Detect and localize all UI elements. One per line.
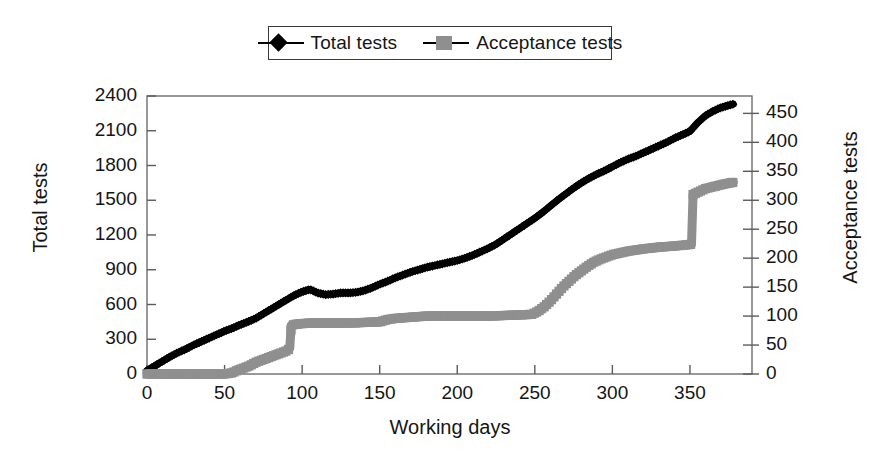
y-tick-label: 300 bbox=[75, 327, 137, 349]
y2-tick-label: 0 bbox=[766, 362, 820, 384]
x-tick-label: 50 bbox=[195, 382, 255, 404]
y-tick-label: 0 bbox=[75, 362, 137, 384]
y-tick-label: 1500 bbox=[75, 188, 137, 210]
y2-tick-label: 250 bbox=[766, 217, 820, 239]
y2-tick-label: 300 bbox=[766, 188, 820, 210]
series-total-tests bbox=[142, 100, 737, 375]
y-tick-label: 1200 bbox=[75, 223, 137, 245]
x-tick-label: 250 bbox=[505, 382, 565, 404]
y2-tick-label: 50 bbox=[766, 333, 820, 355]
y2-tick-label: 150 bbox=[766, 275, 820, 297]
y-tick-label: 2400 bbox=[75, 84, 137, 106]
x-tick-label: 350 bbox=[660, 382, 720, 404]
x-tick-label: 200 bbox=[427, 382, 487, 404]
y-tick-label: 2100 bbox=[75, 119, 137, 141]
y2-tick-label: 200 bbox=[766, 246, 820, 268]
x-tick-label: 300 bbox=[582, 382, 642, 404]
y-tick-label: 900 bbox=[75, 258, 137, 280]
x-tick-label: 150 bbox=[350, 382, 410, 404]
series-acceptance-tests bbox=[142, 178, 737, 379]
x-tick-label: 100 bbox=[272, 382, 332, 404]
y2-tick-label: 450 bbox=[766, 101, 820, 123]
y2-tick-label: 100 bbox=[766, 304, 820, 326]
x-tick-label: 0 bbox=[117, 382, 177, 404]
axis-ticks bbox=[147, 96, 759, 374]
y2-tick-label: 350 bbox=[766, 159, 820, 181]
y-tick-label: 1800 bbox=[75, 154, 137, 176]
y2-tick-label: 400 bbox=[766, 130, 820, 152]
chart-figure: Total tests Acceptance tests Total tests… bbox=[0, 0, 876, 468]
data-series bbox=[142, 100, 737, 379]
plot-frame bbox=[147, 96, 752, 374]
y-tick-label: 600 bbox=[75, 293, 137, 315]
